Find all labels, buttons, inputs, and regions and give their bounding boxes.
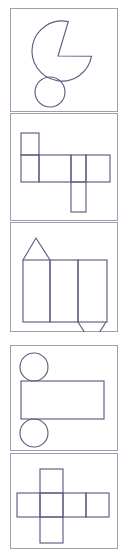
- net-cell-top-left: [21, 133, 39, 155]
- box-net-group: [21, 133, 110, 212]
- panel-triangular-prism-net: [0, 222, 128, 332]
- cross-cell-right-a: [63, 493, 86, 517]
- panel-4-frame: [11, 346, 118, 451]
- cross-cell-center: [40, 493, 63, 517]
- panel-1-canvas: [0, 8, 128, 112]
- prism-face-right: [78, 260, 107, 322]
- net-cell-mid-center: [39, 155, 71, 182]
- panel-2-frame: [11, 114, 118, 221]
- cylinder-body-rect: [21, 381, 104, 419]
- panel-3-frame: [11, 223, 118, 332]
- worksheet-strip: [0, 0, 128, 553]
- cross-cell-left: [17, 493, 40, 517]
- panel-box-net: [0, 113, 128, 221]
- prism-face-center: [50, 260, 78, 322]
- cylinder-bottom-circle: [20, 419, 48, 447]
- panel-5-canvas: [0, 453, 128, 549]
- cross-cell-bottom: [40, 517, 63, 543]
- small-circle-shape: [35, 77, 65, 107]
- panel-4-canvas: [0, 345, 128, 451]
- panel-cube-net-cross: [0, 453, 128, 549]
- top-triangle: [23, 238, 50, 260]
- net-cell-mid-left: [21, 155, 39, 182]
- panel-3-canvas: [0, 222, 128, 332]
- panel-cylinder-net: [0, 345, 128, 451]
- cross-cell-right-b: [86, 493, 109, 517]
- bottom-triangle: [78, 322, 106, 332]
- cylinder-net-group: [20, 353, 104, 447]
- panel-5-frame: [11, 454, 118, 549]
- triangular-prism-net-group: [23, 238, 107, 332]
- cube-net-cross-group: [17, 469, 109, 543]
- large-circle-with-notch-shape: [32, 21, 92, 81]
- net-cell-bottom-tab: [71, 182, 86, 212]
- cross-cell-top: [40, 469, 63, 493]
- panel-2-canvas: [0, 113, 128, 221]
- net-cell-mid-right-b: [86, 155, 110, 182]
- net-cell-mid-right-a: [71, 155, 86, 182]
- panel-circle-with-wedge: [0, 8, 128, 112]
- prism-face-left: [23, 260, 50, 322]
- cylinder-top-circle: [20, 353, 48, 381]
